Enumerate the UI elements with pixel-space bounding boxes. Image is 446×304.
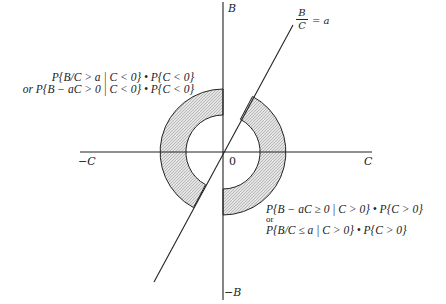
annotation-upper-left-line1: P{B/C > a | C < 0} • P{C < 0} <box>8 71 194 83</box>
b-axis-negative-label: −B <box>224 287 241 298</box>
c-axis-positive-label: C <box>364 156 372 167</box>
b-axis-positive-label: B <box>228 3 236 14</box>
shaded-region-c-negative <box>160 89 223 208</box>
origin-label: 0 <box>229 156 236 167</box>
annotation-upper-left-line2: or P{B − aC > 0 | C < 0} • P{C < 0} <box>8 83 194 95</box>
fraction-denominator: C <box>298 20 306 31</box>
annotation-upper-left: P{B/C > a | C < 0} • P{C < 0} or P{B − a… <box>8 71 194 95</box>
ratio-line-label-rhs: = a <box>312 15 330 26</box>
diagram-canvas <box>0 0 446 304</box>
ratio-line-label-fraction: B C <box>296 8 308 31</box>
annotation-lower-right: P{B − aC ≥ 0 | C > 0} • P{C > 0} or P{B/… <box>266 203 423 236</box>
c-axis-negative-label: −C <box>78 156 96 167</box>
annotation-lower-right-line2: or <box>266 215 423 224</box>
annotation-lower-right-line1: P{B − aC ≥ 0 | C > 0} • P{C > 0} <box>266 203 423 215</box>
fraction-numerator: B <box>298 7 305 18</box>
annotation-lower-right-line3: P{B/C ≤ a | C > 0} • P{C > 0} <box>266 224 423 236</box>
